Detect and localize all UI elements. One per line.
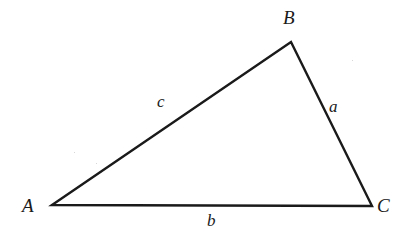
vertex-label-a: A bbox=[22, 196, 34, 215]
scan-speckle bbox=[74, 152, 75, 153]
scan-speckle bbox=[96, 163, 97, 164]
triangle-drawing bbox=[0, 0, 396, 238]
scan-speckle bbox=[352, 60, 353, 61]
side-label-a: a bbox=[329, 98, 338, 115]
side-label-b: b bbox=[207, 212, 216, 229]
vertex-label-c: C bbox=[377, 196, 390, 215]
side-label-c: c bbox=[157, 93, 165, 110]
vertex-label-b: B bbox=[283, 8, 295, 27]
triangle-figure: · · · · · · A B C a b c bbox=[0, 0, 396, 238]
triangle-outline bbox=[52, 42, 372, 206]
